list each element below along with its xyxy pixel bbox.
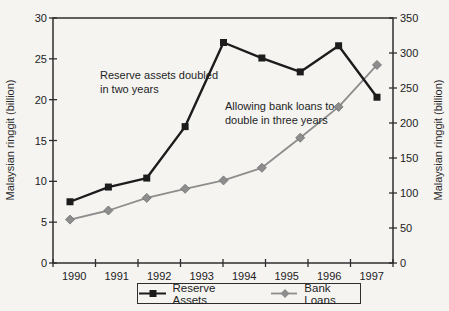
data-point-square <box>67 198 74 205</box>
right-axis-tick-label: 0 <box>400 257 406 269</box>
legend: Reserve Assets Bank Loans <box>137 283 361 304</box>
chart-figure: 1990–97 05101520253005010015020025030035… <box>0 0 449 311</box>
x-axis-tick-label: 1994 <box>232 270 256 282</box>
data-point-square <box>220 39 227 46</box>
annotation-line: in two years <box>100 83 218 97</box>
left-axis-tick-label: 10 <box>35 175 47 187</box>
data-point-square <box>105 184 112 191</box>
left-axis-tick-label: 25 <box>35 53 47 65</box>
right-axis-tick-label: 200 <box>400 117 418 129</box>
annotation-line: Allowing bank loans to <box>225 100 334 114</box>
x-axis-tick-label: 1997 <box>360 270 384 282</box>
left-axis-title: Malaysian ringgit (billion) <box>4 79 16 200</box>
data-point-diamond <box>66 215 75 224</box>
x-axis-tick-label: 1991 <box>105 270 129 282</box>
data-point-diamond <box>104 206 113 215</box>
right-axis-tick-label: 150 <box>400 152 418 164</box>
right-axis-tick-label: 300 <box>400 47 418 59</box>
x-axis-tick-label: 1996 <box>317 270 341 282</box>
plot-area: 0510152025300501001502002503003501990199… <box>0 0 449 311</box>
right-axis-title: Malaysian ringgit (billion) <box>432 79 444 200</box>
right-axis-tick-label: 250 <box>400 82 418 94</box>
right-axis-tick-label: 50 <box>400 222 412 234</box>
data-point-square <box>182 123 189 130</box>
left-axis-tick-label: 30 <box>35 12 47 24</box>
x-axis-tick-label: 1992 <box>147 270 171 282</box>
data-point-square <box>258 55 265 62</box>
data-point-square <box>297 68 304 75</box>
data-point-square <box>143 175 150 182</box>
x-axis-tick-label: 1993 <box>190 270 214 282</box>
legend-label-bank-loans: Bank Loans <box>304 282 360 306</box>
right-axis-tick-label: 100 <box>400 187 418 199</box>
annotation-line: double in three years <box>225 114 334 128</box>
data-point-diamond <box>181 184 190 193</box>
right-axis-tick-label: 350 <box>400 12 418 24</box>
x-axis-tick-label: 1990 <box>62 270 86 282</box>
legend-label-reserve-assets: Reserve Assets <box>173 282 246 306</box>
left-axis-tick-label: 5 <box>41 216 47 228</box>
annotation-line: Reserve assets doubled <box>100 69 218 83</box>
legend-item-bank-loans: Bank Loans <box>270 282 360 306</box>
left-axis-tick-label: 0 <box>41 257 47 269</box>
annotation-reserve-assets: Reserve assets doubled in two years <box>100 69 218 96</box>
bank-loans-marker-icon <box>270 288 298 299</box>
plot-frame <box>53 18 393 263</box>
data-point-diamond <box>142 193 151 202</box>
data-point-square <box>374 94 381 101</box>
annotation-bank-loans: Allowing bank loans to double in three y… <box>225 100 334 127</box>
x-axis-tick-label: 1995 <box>275 270 299 282</box>
left-axis-tick-label: 15 <box>35 135 47 147</box>
data-point-square <box>335 42 342 49</box>
left-axis-tick-label: 20 <box>35 94 47 106</box>
reserve-assets-marker-icon <box>138 288 166 299</box>
data-point-diamond <box>219 176 228 185</box>
legend-item-reserve-assets: Reserve Assets <box>138 282 246 306</box>
